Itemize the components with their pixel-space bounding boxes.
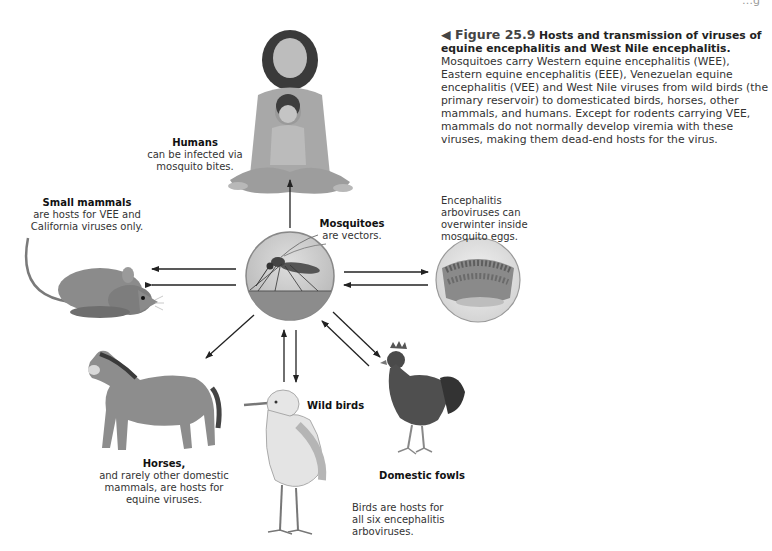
arrow-mosquito-to-fowls — [333, 312, 380, 357]
domestic-fowls-label: Domestic fowls — [372, 470, 472, 482]
horses-title: Horses, — [86, 458, 242, 470]
arrow-mosquito-to-horses — [206, 315, 254, 358]
wild-birds-label: Wild birds — [307, 400, 387, 412]
eggs-text: Encephalitis arboviruses can overwinter … — [441, 195, 528, 242]
birds-note: Birds are hosts for all six encephalitis… — [352, 502, 452, 538]
mosquitoes-text: are vectors. — [322, 230, 381, 241]
mosquito-eggs-illustration — [436, 238, 520, 322]
small-mammals-label: Small mammals are hosts for VEE and Cali… — [22, 197, 152, 233]
rodent-illustration — [26, 238, 164, 318]
wild-birds-title: Wild birds — [307, 400, 387, 412]
horses-text: and rarely other domestic mammals, are h… — [99, 470, 229, 505]
humans-label: Humans can be infected via mosquito bite… — [140, 137, 250, 173]
eggs-label: Encephalitis arboviruses can overwinter … — [441, 195, 561, 243]
humans-title: Humans — [140, 137, 250, 149]
birds-note-text: Birds are hosts for all six encephalitis… — [352, 502, 444, 537]
mosquitoes-title: Mosquitoes — [312, 218, 392, 230]
rooster-illustration — [380, 341, 465, 454]
mosquito-illustration — [240, 232, 340, 331]
domestic-fowls-title: Domestic fowls — [372, 470, 472, 482]
arrow-fowls-to-mosquito — [322, 321, 369, 366]
humans-text: can be infected via mosquito bites. — [147, 149, 243, 172]
mosquitoes-label: Mosquitoes are vectors. — [312, 218, 392, 242]
small-mammals-title: Small mammals — [22, 197, 152, 209]
horse-illustration — [88, 351, 219, 450]
small-mammals-text: are hosts for VEE and California viruses… — [31, 209, 143, 232]
horses-label: Horses, and rarely other domestic mammal… — [86, 458, 242, 506]
